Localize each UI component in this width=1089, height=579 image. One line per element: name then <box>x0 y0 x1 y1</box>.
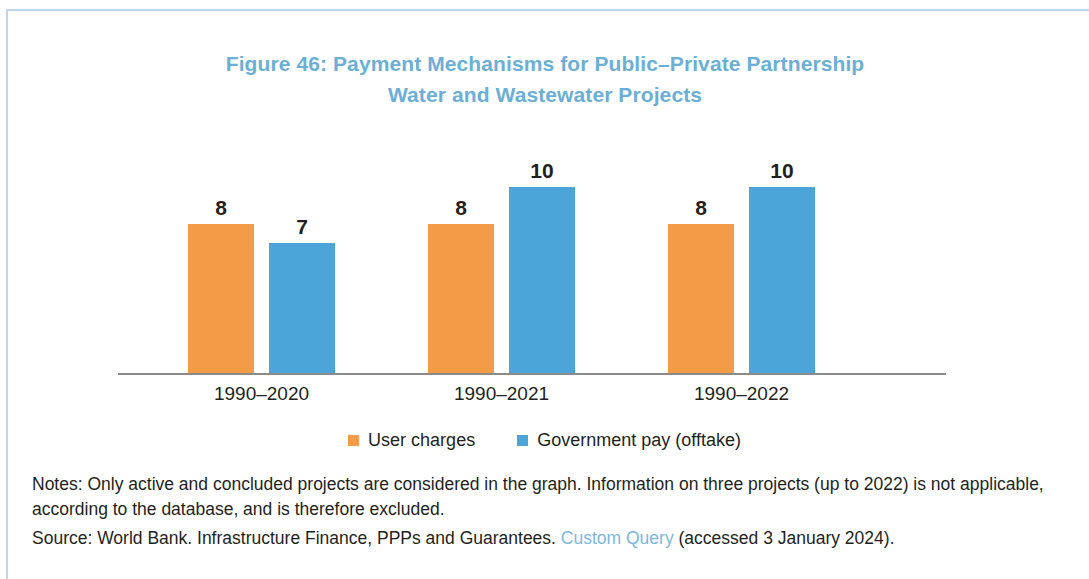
bar-chart-plot-area: 87810810 <box>118 140 946 374</box>
bar-value-label: 7 <box>262 216 342 237</box>
figure-notes: Notes: Only active and concluded project… <box>32 472 1072 522</box>
legend-item[interactable]: User charges <box>348 430 475 450</box>
bar <box>188 224 254 374</box>
figure-frame-top-rule <box>6 9 1089 11</box>
bar <box>269 243 335 374</box>
bar <box>749 187 815 374</box>
figure-title-line-1: Figure 46: Payment Mechanisms for Public… <box>110 48 980 79</box>
figure-source-prefix: Source: World Bank. Infrastructure Finan… <box>32 528 556 548</box>
legend-swatch-icon <box>517 435 528 446</box>
figure-source: Source: World Bank. Infrastructure Finan… <box>32 526 1080 551</box>
legend-item[interactable]: Government pay (offtake) <box>517 430 741 450</box>
x-axis-line <box>118 373 946 375</box>
bar <box>668 224 734 374</box>
figure-notes-line-1: Notes: Only active and concluded project… <box>32 474 908 494</box>
legend-label: Government pay (offtake) <box>537 430 741 450</box>
bar-value-label: 8 <box>661 197 741 218</box>
custom-query-link[interactable]: Custom Query <box>561 528 674 548</box>
x-axis-label: 1990–2020 <box>152 382 372 406</box>
figure-frame-left-rule <box>6 9 8 579</box>
bar-value-label: 8 <box>181 197 261 218</box>
x-axis-label: 1990–2022 <box>632 382 852 406</box>
x-axis-label: 1990–2021 <box>392 382 612 406</box>
bar <box>428 224 494 374</box>
figure-source-suffix: (accessed 3 January 2024). <box>679 528 895 548</box>
figure-container: Figure 46: Payment Mechanisms for Public… <box>0 0 1089 579</box>
bar-value-label: 8 <box>421 197 501 218</box>
chart-legend: User chargesGovernment pay (offtake) <box>0 430 1089 450</box>
bar-value-label: 10 <box>742 160 822 181</box>
bar <box>509 187 575 374</box>
bar-value-label: 10 <box>502 160 582 181</box>
legend-label: User charges <box>368 430 475 450</box>
figure-title-line-2: Water and Wastewater Projects <box>110 79 980 110</box>
legend-swatch-icon <box>348 435 359 446</box>
figure-title: Figure 46: Payment Mechanisms for Public… <box>110 48 980 110</box>
